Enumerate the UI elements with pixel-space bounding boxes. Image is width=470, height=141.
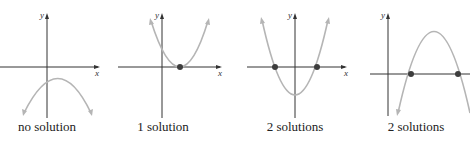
panel-no-solution: x y	[0, 10, 100, 118]
y-axis-label: y	[380, 10, 385, 20]
caption-panel-3: 2 solutions	[267, 119, 324, 135]
caption-panel-4: 2 solutions	[388, 119, 445, 135]
x-intercept-dot	[408, 71, 414, 77]
y-axis-arrow-icon	[386, 13, 390, 19]
caption-panel-2: 1 solution	[137, 119, 189, 135]
parabola-curve	[24, 79, 91, 114]
y-axis-arrow-icon	[45, 13, 49, 19]
parabola-curve	[151, 21, 208, 67]
x-intercept-dot	[272, 64, 278, 70]
caption-panel-1: no solution	[18, 119, 76, 135]
y-axis-label: y	[39, 10, 44, 20]
curve-arrow-icon	[260, 17, 265, 24]
curve-arrow-icon	[396, 109, 401, 116]
curve-arrow-icon	[149, 18, 154, 25]
x-axis-label: x	[343, 68, 348, 78]
x-intercept-dot	[314, 64, 320, 70]
y-axis-arrow-icon	[160, 13, 164, 19]
curve-arrow-icon	[205, 18, 210, 25]
panel-two-solutions-up: x y	[247, 10, 348, 118]
panel-two-solutions-down: y	[370, 10, 470, 116]
y-axis-label: y	[287, 10, 292, 20]
x-axis-label: x	[94, 68, 99, 78]
y-axis-arrow-icon	[293, 13, 297, 19]
curve-arrow-icon	[325, 17, 330, 24]
panel-one-solution: x y	[118, 10, 222, 118]
y-axis-label: y	[154, 10, 159, 20]
x-intercept-dot	[455, 71, 461, 77]
x-axis-label: x	[217, 68, 222, 78]
x-intercept-dot	[177, 64, 183, 70]
